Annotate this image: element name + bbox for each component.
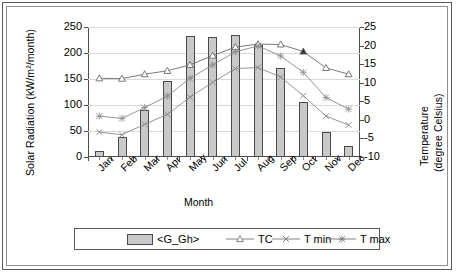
legend-item--g-gh-[interactable]: <G_Gh> [127, 233, 199, 245]
x-axis-title: Month [184, 196, 213, 208]
data-point-x [323, 113, 329, 119]
left-axis-tick-label: 250 [42, 20, 82, 32]
right-axis-tick-label: 10 [364, 76, 400, 88]
legend-line-swatch [271, 233, 301, 245]
line-t-min [99, 68, 348, 135]
right-axis-tick-label: 25 [364, 20, 400, 32]
y-axis-title-right-line1: Temperature [418, 106, 430, 166]
data-point-asterisk [232, 48, 239, 55]
chart-page: Solar Radiation (kW/m²/month) Temperatur… [0, 0, 458, 275]
data-point-asterisk [141, 104, 148, 111]
data-point-x [210, 79, 216, 85]
legend-item-t-min[interactable]: T min [271, 233, 331, 245]
data-point-asterisk [254, 42, 261, 49]
chart-legend: <G_Gh>TCT minT max [74, 228, 380, 250]
data-point-x [164, 111, 170, 117]
legend-line-swatch [327, 233, 357, 245]
data-point-asterisk [300, 69, 307, 76]
left-axis-tick-label: 100 [42, 98, 82, 110]
data-point-asterisk [277, 52, 284, 59]
legend-label: <G_Gh> [157, 233, 199, 245]
data-point-asterisk [345, 105, 352, 112]
plot-area: 050100150200250 -10-50510152025 JanFebMa… [88, 27, 360, 157]
left-axis-tick-label: 50 [42, 124, 82, 136]
data-point-asterisk [338, 235, 345, 242]
right-axis-tick-label: -10 [364, 150, 400, 162]
data-point-triangle [187, 61, 194, 67]
data-point-x [278, 74, 284, 80]
data-point-asterisk [322, 94, 329, 101]
line-series-layer [88, 27, 360, 157]
data-point-x [187, 94, 193, 100]
legend-label: T max [360, 233, 390, 245]
data-point-triangle [323, 64, 330, 70]
y-axis-title-left: Solar Radiation (kW/m²/month) [24, 29, 36, 176]
data-point-asterisk [164, 92, 171, 99]
right-axis-tick-label: 20 [364, 39, 400, 51]
line-tc [99, 44, 348, 79]
data-point-asterisk [186, 75, 193, 82]
data-point-asterisk [209, 61, 216, 68]
right-axis-tick-label: -5 [364, 131, 400, 143]
data-point-asterisk [118, 115, 125, 122]
data-point-asterisk [96, 113, 103, 120]
left-axis-tick-label: 150 [42, 72, 82, 84]
data-point-triangle [96, 75, 103, 81]
x-axis-tick [88, 157, 89, 161]
legend-item-t-max[interactable]: T max [327, 233, 390, 245]
right-axis-tick-label: 5 [364, 94, 400, 106]
legend-line-swatch [225, 233, 255, 245]
right-axis-tick-label: 15 [364, 57, 400, 69]
legend-bar-swatch [127, 234, 153, 245]
x-axis-tick [247, 157, 248, 161]
legend-item-tc[interactable]: TC [225, 233, 273, 245]
y-axis-title-right-line2: (degree Celsius) [432, 93, 444, 172]
data-point-x [300, 93, 306, 99]
right-axis-tick-label: 0 [364, 113, 400, 125]
data-point-triangle [209, 52, 216, 58]
left-axis-tick-label: 0 [42, 150, 82, 162]
left-axis-tick-label: 200 [42, 46, 82, 58]
data-point-x [346, 122, 352, 128]
data-point-x [142, 121, 148, 127]
